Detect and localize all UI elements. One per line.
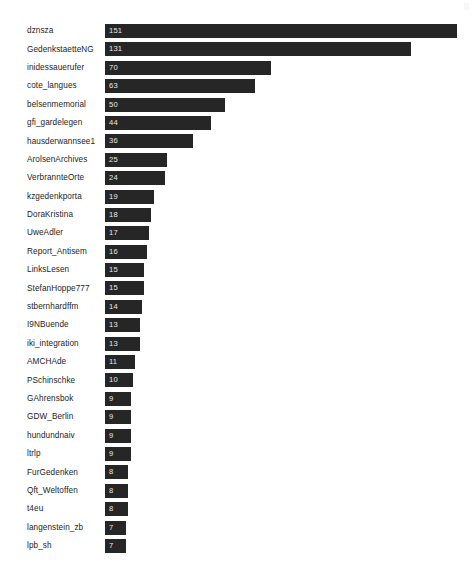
bar-value-label: 7	[105, 524, 113, 532]
bar-row: iki_integration13	[0, 335, 474, 353]
bar-row: VerbrannteOrte24	[0, 169, 474, 187]
bar-track: 16	[105, 245, 466, 259]
bar: 70	[105, 61, 271, 75]
bar-value-label: 36	[105, 137, 118, 145]
bar-value-label: 24	[105, 174, 118, 182]
bar-value-label: 9	[105, 432, 113, 440]
category-label: GedenkstaetteNG	[27, 45, 99, 55]
bar-row: hundundnaiv9	[0, 427, 474, 445]
bar-value-label: 70	[105, 64, 118, 72]
corner-artifact	[464, 3, 469, 10]
bar-row: StefanHoppe77715	[0, 279, 474, 297]
bar-value-label: 8	[105, 487, 113, 495]
category-label: AMCHAde	[27, 357, 99, 367]
bar: 63	[105, 79, 255, 93]
bar-value-label: 9	[105, 395, 113, 403]
bar-value-label: 17	[105, 229, 118, 237]
bar-row: t4eu8	[0, 500, 474, 518]
bar: 25	[105, 153, 167, 167]
bar-value-label: 9	[105, 450, 113, 458]
category-label: Report_Antisem	[27, 247, 99, 257]
bar-track: 8	[105, 484, 466, 498]
bar-row: GDW_Berlin9	[0, 408, 474, 426]
bar-track: 10	[105, 373, 466, 387]
bar-track: 9	[105, 410, 466, 424]
category-label: cote_langues	[27, 81, 99, 91]
bar: 14	[105, 300, 142, 314]
bar-track: 63	[105, 79, 466, 93]
plot-area: dznsza151GedenkstaetteNG131inidessaueruf…	[0, 22, 474, 550]
bar-row: Qft_Weltoffen8	[0, 482, 474, 500]
bar-track: 13	[105, 337, 466, 351]
category-label: UweAdler	[27, 228, 99, 238]
bar: 8	[105, 465, 128, 479]
bar: 24	[105, 171, 165, 185]
bar-value-label: 8	[105, 505, 113, 513]
bar-track: 131	[105, 42, 466, 56]
bar: 10	[105, 373, 133, 387]
bar-track: 14	[105, 300, 466, 314]
bar-track: 44	[105, 116, 466, 130]
bar-value-label: 9	[105, 413, 113, 421]
category-label: langenstein_zb	[27, 523, 99, 533]
bar: 9	[105, 447, 131, 461]
bar-track: 50	[105, 98, 466, 112]
bar-row: lpb_sh7	[0, 537, 474, 555]
bar: 18	[105, 208, 151, 222]
category-label: Qft_Weltoffen	[27, 486, 99, 496]
category-label: ArolsenArchives	[27, 155, 99, 165]
bar-row: UweAdler17	[0, 224, 474, 242]
category-label: VerbrannteOrte	[27, 173, 99, 183]
bar-row: langenstein_zb7	[0, 519, 474, 537]
bar-row: cote_langues63	[0, 77, 474, 95]
bar-track: 18	[105, 208, 466, 222]
bar-value-label: 13	[105, 340, 118, 348]
bar: 19	[105, 190, 154, 204]
category-label: stbernhardffm	[27, 302, 99, 312]
bar-value-label: 11	[105, 358, 117, 366]
bar-value-label: 44	[105, 119, 118, 127]
bar-row: FurGedenken8	[0, 463, 474, 481]
category-label: StefanHoppe777	[27, 284, 99, 294]
bar: 44	[105, 116, 211, 130]
bar-value-label: 19	[105, 193, 118, 201]
bar-track: 15	[105, 281, 466, 295]
bar-value-label: 15	[105, 266, 118, 274]
bar-track: 7	[105, 539, 466, 553]
bar-row: inidessauerufer70	[0, 59, 474, 77]
bar: 9	[105, 410, 131, 424]
bar-track: 24	[105, 171, 466, 185]
bar-row: stbernhardffm14	[0, 298, 474, 316]
bar-row: dznsza151	[0, 22, 474, 40]
category-label: I9NBuende	[27, 320, 99, 330]
category-label: LinksLesen	[27, 265, 99, 275]
bar-row: Report_Antisem16	[0, 243, 474, 261]
bar: 9	[105, 429, 131, 443]
bar: 131	[105, 42, 411, 56]
category-label: hundundnaiv	[27, 431, 99, 441]
bar-track: 9	[105, 447, 466, 461]
category-label: ltrlp	[27, 449, 99, 459]
bar-row: GedenkstaetteNG131	[0, 40, 474, 58]
category-label: FurGedenken	[27, 468, 99, 478]
bar-value-label: 151	[105, 27, 122, 35]
bar: 151	[105, 24, 457, 38]
bar: 7	[105, 521, 126, 535]
bar-track: 9	[105, 392, 466, 406]
bar-value-label: 16	[105, 248, 118, 256]
bar: 13	[105, 318, 140, 332]
category-label: t4eu	[27, 504, 99, 514]
category-label: gfi_gardelegen	[27, 118, 99, 128]
bar-value-label: 7	[105, 542, 113, 550]
category-label: inidessauerufer	[27, 63, 99, 73]
bar-track: 9	[105, 429, 466, 443]
category-label: GAhrensbok	[27, 394, 99, 404]
category-label: dznsza	[27, 26, 99, 36]
bar-track: 15	[105, 263, 466, 277]
bar: 8	[105, 484, 128, 498]
bar-value-label: 14	[105, 303, 118, 311]
category-label: kzgedenkporta	[27, 192, 99, 202]
bar: 16	[105, 245, 147, 259]
category-label: iki_integration	[27, 339, 99, 349]
bar-track: 17	[105, 226, 466, 240]
